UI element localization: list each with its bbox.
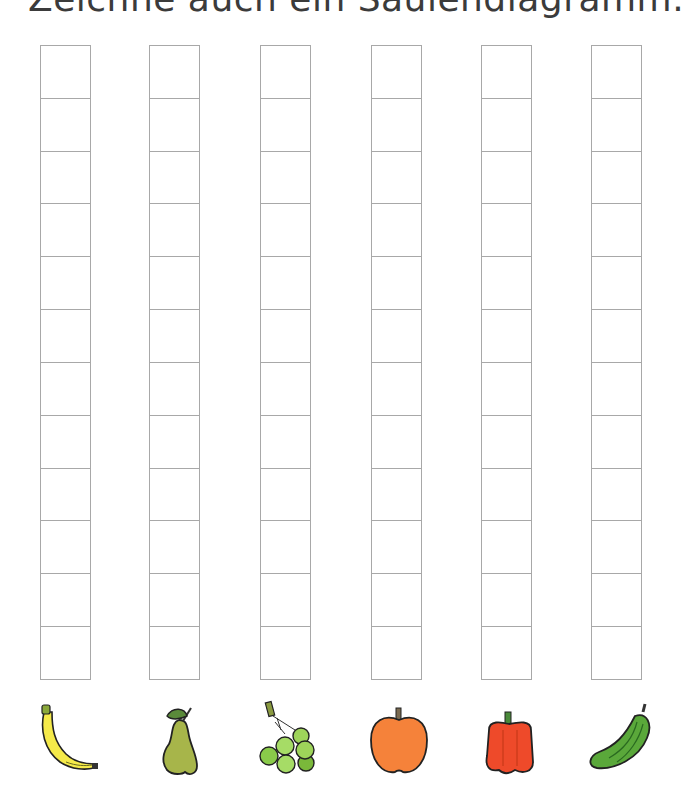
grid-cell[interactable] (482, 416, 531, 469)
grid-cell[interactable] (482, 363, 531, 416)
grid-cell[interactable] (482, 99, 531, 152)
grid-cell[interactable] (482, 574, 531, 627)
grid-cell[interactable] (482, 469, 531, 522)
grid-cell[interactable] (41, 152, 90, 205)
grid-cell[interactable] (150, 416, 199, 469)
cucumber-icon (585, 700, 655, 780)
grid-cell[interactable] (372, 257, 421, 310)
grid-cell[interactable] (372, 99, 421, 152)
grid-cell[interactable] (261, 257, 310, 310)
grid-cell[interactable] (592, 416, 641, 469)
grid-cell[interactable] (41, 627, 90, 679)
grid-cell[interactable] (372, 416, 421, 469)
bell-pepper-icon (475, 700, 545, 780)
grid-cell[interactable] (592, 257, 641, 310)
worksheet-title: Zeichne auch ein Säulendiagramm. (28, 0, 683, 17)
grid-cell[interactable] (482, 310, 531, 363)
grid-cell[interactable] (150, 99, 199, 152)
grid-cell[interactable] (41, 204, 90, 257)
grid-cell[interactable] (261, 627, 310, 679)
column-bell-pepper[interactable] (481, 45, 532, 680)
grid-cell[interactable] (261, 99, 310, 152)
column-apple[interactable] (371, 45, 422, 680)
column-cucumber[interactable] (591, 45, 642, 680)
grid-cell[interactable] (41, 99, 90, 152)
grid-cell[interactable] (41, 521, 90, 574)
grid-cell[interactable] (150, 46, 199, 99)
grid-cell[interactable] (41, 416, 90, 469)
grid-cell[interactable] (150, 257, 199, 310)
grid-cell[interactable] (41, 469, 90, 522)
column-grapes[interactable] (260, 45, 311, 680)
grid-cell[interactable] (592, 627, 641, 679)
grid-cell[interactable] (372, 363, 421, 416)
grid-cell[interactable] (482, 46, 531, 99)
grid-cell[interactable] (592, 574, 641, 627)
grid-cell[interactable] (261, 152, 310, 205)
grid-cell[interactable] (150, 469, 199, 522)
grid-cell[interactable] (150, 152, 199, 205)
grid-cell[interactable] (592, 204, 641, 257)
banana-icon (30, 700, 100, 780)
grid-cell[interactable] (482, 257, 531, 310)
grid-cell[interactable] (261, 521, 310, 574)
grid-cell[interactable] (372, 46, 421, 99)
grid-cell[interactable] (372, 204, 421, 257)
grid-cell[interactable] (261, 363, 310, 416)
column-pear[interactable] (149, 45, 200, 680)
grid-cell[interactable] (261, 574, 310, 627)
column-banana[interactable] (40, 45, 91, 680)
grid-cell[interactable] (592, 469, 641, 522)
apple-icon (365, 700, 435, 780)
grid-cell[interactable] (41, 257, 90, 310)
grid-cell[interactable] (482, 204, 531, 257)
grid-cell[interactable] (150, 627, 199, 679)
pear-icon (145, 700, 215, 780)
grapes-icon (255, 700, 325, 780)
grid-cell[interactable] (150, 521, 199, 574)
grid-cell[interactable] (372, 310, 421, 363)
grid-cell[interactable] (150, 574, 199, 627)
grid-cell[interactable] (372, 521, 421, 574)
grid-cell[interactable] (261, 310, 310, 363)
grid-cell[interactable] (592, 46, 641, 99)
grid-cell[interactable] (592, 521, 641, 574)
grid-cell[interactable] (372, 469, 421, 522)
grid-cell[interactable] (150, 363, 199, 416)
grid-cell[interactable] (261, 469, 310, 522)
grid-cell[interactable] (261, 416, 310, 469)
grid-cell[interactable] (372, 152, 421, 205)
grid-cell[interactable] (592, 152, 641, 205)
grid-cell[interactable] (592, 99, 641, 152)
grid-cell[interactable] (41, 310, 90, 363)
grid-cell[interactable] (482, 627, 531, 679)
grid-cell[interactable] (261, 46, 310, 99)
grid-cell[interactable] (41, 574, 90, 627)
grid-cell[interactable] (592, 310, 641, 363)
grid-cell[interactable] (150, 310, 199, 363)
grid-cell[interactable] (261, 204, 310, 257)
grid-cell[interactable] (482, 152, 531, 205)
grid-cell[interactable] (592, 363, 641, 416)
grid-cell[interactable] (41, 46, 90, 99)
grid-cell[interactable] (372, 627, 421, 679)
grid-cell[interactable] (41, 363, 90, 416)
grid-cell[interactable] (482, 521, 531, 574)
grid-cell[interactable] (150, 204, 199, 257)
grid-cell[interactable] (372, 574, 421, 627)
